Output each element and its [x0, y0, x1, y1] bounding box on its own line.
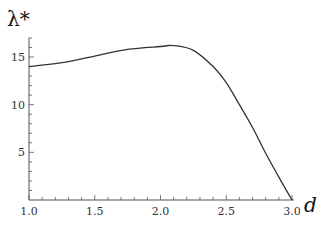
x-tick-labels: 1.01.52.02.53.0: [20, 205, 301, 218]
x-tick-label: 2.0: [152, 205, 170, 218]
line-chart: 51015 1.01.52.02.53.0 λ* d: [0, 0, 326, 227]
x-tick-label: 3.0: [283, 205, 301, 218]
x-tick-label: 2.5: [218, 205, 236, 218]
y-tick-label: 10: [11, 99, 25, 112]
y-axis-title: λ*: [7, 7, 30, 31]
y-tick-label: 15: [11, 51, 25, 64]
data-line: [29, 45, 292, 200]
x-tick-label: 1.5: [86, 205, 104, 218]
x-axis: [29, 195, 294, 200]
x-axis-title: d: [304, 193, 317, 217]
y-axis: [29, 38, 34, 200]
y-tick-label: 5: [18, 146, 25, 159]
y-tick-labels: 51015: [11, 51, 25, 159]
x-tick-label: 1.0: [20, 205, 38, 218]
